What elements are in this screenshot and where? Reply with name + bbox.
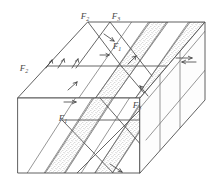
figure-root: F2 F3 F1 F2 F3 F1	[0, 0, 222, 190]
fault-block-diagram: F2 F3 F1 F2 F3 F1	[0, 0, 222, 190]
